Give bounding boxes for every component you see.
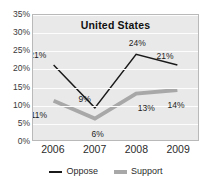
y-axis: 0%5%10%15%20%25%30%35% [0, 14, 30, 141]
data-label: 13% [138, 104, 155, 113]
x-axis-tick-label: 2009 [166, 143, 189, 155]
gridline [33, 124, 198, 125]
data-label: 6% [91, 130, 103, 139]
y-axis-tick-label: 30% [0, 28, 30, 37]
legend-item-support[interactable]: Support [114, 167, 163, 176]
y-axis-tick-label: 25% [0, 46, 30, 55]
legend-label: Support [131, 167, 163, 176]
data-label: 9% [78, 95, 90, 104]
gridline [33, 33, 198, 34]
y-axis-tick-label: 15% [0, 82, 30, 91]
plot-area: United States 21%9%24%21%11%6%13%14% [32, 14, 199, 141]
x-axis-tick-label: 2007 [83, 143, 106, 155]
y-axis-tick-label: 5% [0, 119, 30, 128]
y-axis-tick-label: 35% [0, 10, 30, 19]
data-label: 11% [32, 111, 47, 120]
data-label: 24% [129, 39, 146, 48]
chart-container: 0%5%10%15%20%25%30%35% United States 21%… [0, 0, 212, 191]
legend-label: Oppose [66, 167, 98, 176]
x-axis: 2006200720082009 [32, 143, 199, 159]
series-line-support [54, 90, 178, 119]
data-label: 14% [168, 101, 185, 110]
legend-swatch-icon [114, 170, 127, 174]
x-axis-tick-label: 2008 [125, 143, 148, 155]
gridline [33, 88, 198, 89]
x-axis-tick-label: 2006 [41, 143, 64, 155]
series-line-oppose [54, 54, 178, 108]
data-label: 21% [157, 52, 174, 61]
chart-legend: OpposeSupport [0, 167, 212, 176]
legend-swatch-icon [49, 171, 62, 173]
y-axis-tick-label: 0% [0, 137, 30, 146]
legend-item-oppose[interactable]: Oppose [49, 167, 98, 176]
gridline [33, 69, 198, 70]
data-label: 21% [32, 51, 46, 60]
y-axis-tick-label: 10% [0, 100, 30, 109]
gridline [33, 15, 198, 16]
y-axis-tick-label: 20% [0, 64, 30, 73]
